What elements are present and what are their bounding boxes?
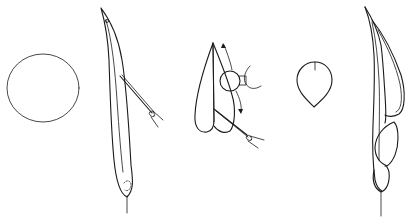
fold-line (213, 43, 214, 122)
needle-thread-2 (151, 117, 158, 127)
diagram-svg (0, 0, 414, 219)
panel-assembled (365, 7, 404, 216)
petal-outline (297, 62, 332, 107)
blade-outline (101, 8, 132, 197)
arrow-down-line (236, 91, 241, 112)
panel-petal (297, 62, 332, 107)
needle-thread-2 (248, 141, 258, 148)
panel-elongated-blade (101, 8, 163, 213)
left-lobe (195, 43, 214, 132)
roller-handle (244, 66, 261, 88)
arrow-up-line (224, 45, 232, 70)
needle-shaft-edge (216, 111, 248, 137)
outer-flap (372, 20, 404, 116)
lower-bud (373, 166, 389, 192)
blade-midrib (106, 20, 123, 172)
upper-bud (375, 122, 398, 166)
panel-folded-blade (195, 43, 264, 148)
right-lobe (213, 43, 234, 132)
arrow-up-icon (221, 43, 226, 48)
outer-flap-inner (378, 30, 401, 112)
panel-circle (7, 54, 79, 122)
base-dotted-bud (124, 181, 131, 191)
needle-shaft (120, 76, 152, 113)
diagram-canvas (0, 0, 414, 219)
circle-disc-icon (7, 54, 79, 122)
arrow-down-icon (238, 109, 243, 114)
needle-eye-icon (148, 110, 155, 117)
